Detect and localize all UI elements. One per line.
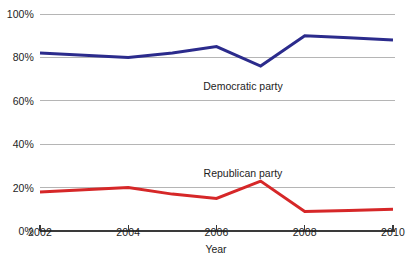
line-chart: 100%80%60%40%20%0% 20022004200620082010 …: [0, 0, 419, 265]
x-axis-tick-label: 2002: [28, 227, 52, 238]
data-series-lines: [40, 36, 393, 212]
series-label-democratic: Democratic party: [203, 81, 282, 92]
x-axis-tick-label: 2010: [381, 227, 405, 238]
y-axis-tick-label: 100%: [0, 9, 34, 20]
y-axis-tick-label: 40%: [0, 139, 34, 150]
series-line-republican: [40, 181, 393, 211]
y-axis-tick-label: 60%: [0, 96, 34, 107]
x-axis-tick-label: 2004: [116, 227, 140, 238]
x-axis-tick-label: 2008: [293, 227, 317, 238]
series-line-democratic: [40, 36, 393, 66]
series-label-republican: Republican party: [204, 168, 283, 179]
y-axis-tick-label: 20%: [0, 182, 34, 193]
x-axis-title: Year: [205, 244, 226, 255]
x-axis-tick-label: 2006: [205, 227, 229, 238]
y-axis-tick-label: 80%: [0, 52, 34, 63]
